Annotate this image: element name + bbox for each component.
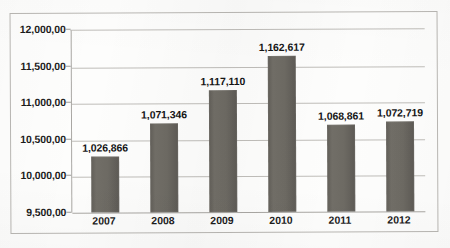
y-axis-tick-label: 9,500,00 bbox=[4, 206, 66, 218]
y-axis-tick-label: 10,500,00 bbox=[4, 133, 66, 145]
y-axis-tick-label: 11,500,00 bbox=[4, 59, 66, 71]
bar-2009 bbox=[209, 90, 237, 212]
x-axis-tick-label-2012: 2012 bbox=[359, 213, 439, 225]
plot-area: 1,026,866 1,071,346 1,117,110 1,162,617 … bbox=[71, 28, 426, 212]
bar-2010 bbox=[268, 56, 297, 212]
bar-value-2012: 1,072,719 bbox=[360, 106, 440, 118]
gridline bbox=[72, 176, 425, 178]
gridline bbox=[72, 103, 425, 105]
bar-2012 bbox=[386, 121, 414, 211]
bar-2011 bbox=[327, 124, 355, 211]
gridline bbox=[72, 66, 425, 68]
bar-value-2010: 1,162,617 bbox=[242, 41, 322, 53]
y-axis-tick-label: 11,000,00 bbox=[4, 96, 66, 108]
bar-value-2009: 1,117,110 bbox=[183, 75, 263, 87]
chart-screenshot: 12,000,00 11,500,00 11,000,00 10,500,00 … bbox=[0, 0, 450, 248]
y-axis-tick-label: 10,000,00 bbox=[4, 169, 66, 181]
x-axis-tick-labels: 2007 2008 2009 2010 2011 2012 bbox=[71, 213, 425, 232]
bar-2008 bbox=[150, 123, 178, 212]
bar-2007 bbox=[91, 156, 119, 212]
bar-value-2007: 1,026,866 bbox=[65, 141, 145, 153]
bar-value-2008: 1,071,346 bbox=[124, 108, 204, 120]
y-axis-tick-labels: 12,000,00 11,500,00 11,000,00 10,500,00 … bbox=[0, 29, 66, 212]
y-axis-tick-label: 12,000,00 bbox=[4, 23, 66, 35]
